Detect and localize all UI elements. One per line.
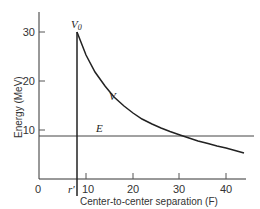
- x-tick-label-30: 30: [173, 183, 185, 195]
- x-axis-title: Center-to-center separation (F): [80, 196, 218, 207]
- x-tick-label-20: 20: [127, 183, 139, 195]
- x-tick-label-10: 10: [82, 183, 94, 195]
- v0-label: V0: [71, 18, 82, 32]
- r-prime-label: r′: [68, 183, 75, 195]
- energy-label-E: E: [95, 122, 103, 134]
- potential-curve-V: [77, 32, 244, 153]
- y-axis-title: Energy (MeV): [13, 76, 24, 138]
- chart: 30 20 10 0 10 20 30 40 r′ E V0 V Center-…: [0, 0, 260, 209]
- x-tick-label-0: 0: [35, 183, 41, 195]
- y-tick-label-10: 10: [23, 124, 35, 136]
- y-tick-label-30: 30: [23, 26, 35, 38]
- v-label: V: [109, 90, 117, 102]
- x-tick-label-40: 40: [220, 183, 232, 195]
- y-tick-label-20: 20: [23, 75, 35, 87]
